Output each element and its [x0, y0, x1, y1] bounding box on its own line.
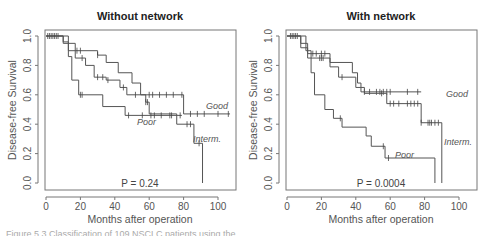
panel-title: Without network — [97, 10, 184, 22]
y-axis: 0.00.20.40.60.81.0 — [22, 29, 38, 190]
y-tick-label: 0.6 — [263, 87, 274, 101]
figure-caption: Figure 5.3 Classification of 109 NSCLC p… — [6, 227, 246, 236]
curve-label-good: Good — [206, 101, 229, 111]
p-value: P = 0.24 — [121, 178, 159, 189]
x-tick-label: 80 — [419, 201, 431, 212]
x-tick-label: 80 — [178, 201, 190, 212]
y-tick-label: 0.6 — [22, 87, 33, 101]
curve-label-poor: Poor — [395, 150, 415, 160]
panel-with-network: With network 0.00.20.40.60.81.0 02040608… — [247, 10, 477, 225]
panel-without-network: Without network 0.00.20.40.60.81.0 02040… — [6, 10, 236, 225]
curve-interm — [46, 36, 203, 183]
x-axis-label: Months after operation — [87, 213, 192, 225]
figure: Without network 0.00.20.40.60.81.0 02040… — [0, 0, 489, 236]
curve-label-interm: Interm. — [444, 137, 472, 147]
x-tick-label: 40 — [109, 201, 121, 212]
y-axis-label: Disease-free Survival — [6, 60, 18, 160]
y-tick-label: 0.8 — [22, 58, 33, 72]
curve-label-interm: Interm. — [193, 134, 221, 144]
curve-poor — [46, 36, 182, 115]
panel-title: With network — [347, 10, 417, 22]
curve-label-poor: Poor — [137, 117, 157, 127]
x-tick-label: 100 — [210, 201, 227, 212]
curve-interm — [287, 36, 442, 183]
x-axis: 020406080100 — [43, 197, 227, 212]
survival-curves — [46, 33, 230, 183]
x-tick-label: 20 — [75, 201, 87, 212]
x-tick-label: 20 — [316, 201, 328, 212]
curve-label-good: Good — [446, 89, 469, 99]
x-tick-label: 0 — [43, 201, 49, 212]
x-tick-label: 40 — [350, 201, 362, 212]
y-tick-label: 1.0 — [263, 29, 274, 43]
y-tick-label: 0.8 — [263, 58, 274, 72]
curve-good — [287, 36, 421, 92]
y-axis: 0.00.20.40.60.81.0 — [263, 29, 279, 190]
survival-curves — [287, 33, 442, 183]
y-tick-label: 0.4 — [22, 117, 33, 131]
x-tick-label: 100 — [451, 201, 468, 212]
y-tick-label: 0.4 — [263, 117, 274, 131]
p-value: P = 0.0004 — [357, 178, 406, 189]
curve-good — [46, 36, 230, 114]
x-tick-label: 0 — [284, 201, 290, 212]
x-axis: 020406080100 — [284, 197, 468, 212]
x-axis-label: Months after operation — [328, 213, 433, 225]
y-tick-label: 0.0 — [22, 176, 33, 190]
x-tick-label: 60 — [144, 201, 156, 212]
y-tick-label: 1.0 — [22, 29, 33, 43]
y-tick-label: 0.2 — [263, 146, 274, 160]
y-axis-label: Disease-free Survival — [247, 60, 259, 160]
y-tick-label: 0.2 — [22, 146, 33, 160]
x-tick-label: 60 — [385, 201, 397, 212]
y-tick-label: 0.0 — [263, 176, 274, 190]
